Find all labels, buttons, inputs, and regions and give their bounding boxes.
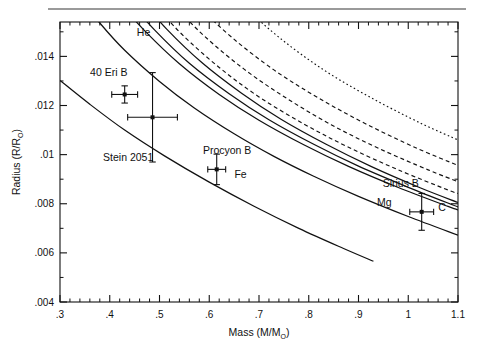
- x-tick-label: .5: [155, 309, 164, 320]
- point-label-sirius-b: Sirius B: [383, 177, 419, 189]
- marker: [215, 167, 219, 171]
- curve-dashed-3: [166, 0, 458, 165]
- x-tick-label: .4: [106, 309, 115, 320]
- svg-text:Radius (R/RO): Radius (R/RO): [10, 129, 24, 195]
- white-dwarf-mass-radius-figure: .3.4.5.6.7.8.911.1.004.006.008.01.012.01…: [0, 0, 482, 353]
- svg-text:Mass (M/MO): Mass (M/MO): [229, 326, 290, 340]
- curve-group: [60, 0, 458, 261]
- y-tick-label: .006: [35, 247, 55, 258]
- curve-label-fe: Fe: [234, 168, 246, 180]
- curve-mg-solid-lower: [119, 0, 458, 203]
- x-tick-label: .6: [205, 309, 214, 320]
- chart-canvas: .3.4.5.6.7.8.911.1.004.006.008.01.012.01…: [0, 0, 482, 353]
- curve-he: [60, 0, 458, 235]
- curve-label-he: He: [137, 26, 151, 38]
- y-tick-label: .01: [40, 149, 54, 160]
- x-tick-label: .7: [255, 309, 264, 320]
- marker: [123, 92, 127, 96]
- model-curves: [60, 0, 458, 261]
- curve-dashed-1: [128, 0, 458, 193]
- data-point-stein-2051: [128, 73, 178, 162]
- marker: [420, 210, 424, 214]
- point-label-stein-2051: Stein 2051: [103, 151, 153, 163]
- curve-c-solid-mid: [106, 0, 458, 207]
- point-label-procyon-b: Procyon B: [203, 144, 251, 156]
- y-tick-label: .004: [35, 297, 55, 308]
- data-point-40-eri-b: [112, 86, 138, 103]
- x-tick-label: .8: [305, 309, 314, 320]
- y-axis-title: Radius (R/RO): [10, 129, 24, 195]
- y-tick-label: .012: [35, 100, 55, 111]
- y-tick-label: .008: [35, 198, 55, 209]
- curve-dashed-2: [146, 0, 458, 182]
- x-tick-label: 1.1: [451, 309, 465, 320]
- point-label-40-eri-b: 40 Eri B: [90, 66, 127, 78]
- curve-label-c: C: [438, 201, 446, 213]
- marker: [151, 115, 155, 119]
- curve-label-mg: Mg: [377, 196, 392, 208]
- x-tick-label: .9: [354, 309, 363, 320]
- x-tick-label: 1: [405, 309, 411, 320]
- x-tick-label: .3: [56, 309, 65, 320]
- y-tick-label: .014: [35, 51, 55, 62]
- data-point-procyon-b: [208, 154, 226, 184]
- x-axis-title: Mass (M/MO): [229, 326, 290, 340]
- curve-dotted-4: [209, 0, 458, 140]
